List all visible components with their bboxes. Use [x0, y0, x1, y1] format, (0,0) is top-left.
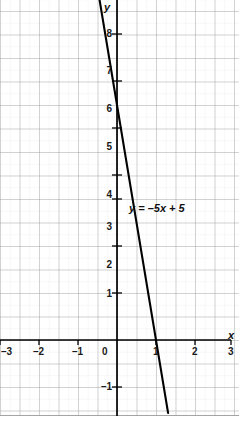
x-tick-label-neg3: –3	[1, 347, 12, 357]
coordinate-plane-svg	[0, 0, 239, 426]
y-tick-label-1: 1	[104, 289, 112, 299]
x-tick-label-neg1: –1	[72, 347, 83, 357]
x-axis-name: x	[228, 330, 234, 341]
x-tick-label-0: 0	[102, 347, 108, 357]
y-tick-label-7: 7	[104, 66, 112, 76]
x-tick-label-1: 1	[153, 347, 159, 357]
x-tick-label-neg2: –2	[33, 347, 44, 357]
x-tick-label-2: 2	[192, 347, 198, 357]
y-tick-label-6: 6	[104, 104, 112, 114]
y-tick-label-8: 8	[104, 29, 112, 39]
y-tick-label-neg1: –1	[100, 382, 112, 392]
y-tick-label-4: 4	[104, 190, 112, 200]
y-axis-name: y	[104, 2, 110, 13]
y-tick-label-5: 5	[104, 142, 112, 152]
graph-figure: y x 8 7 6 5 4 3 2 1 –1 –3 –2 –1 0 1 2 3 …	[0, 0, 239, 426]
y-tick-label-2: 2	[104, 260, 112, 270]
x-tick-label-3: 3	[228, 347, 234, 357]
equation-label: y = –5x + 5	[129, 203, 185, 214]
y-tick-label-3: 3	[104, 222, 112, 232]
